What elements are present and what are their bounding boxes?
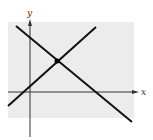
coordinate-diagram: y x (0, 0, 153, 140)
intersection-point (55, 59, 60, 64)
x-axis-label: x (141, 87, 146, 97)
y-axis-label: y (26, 8, 33, 18)
plot-background (8, 22, 134, 118)
x-axis-arrow-icon (132, 90, 139, 94)
